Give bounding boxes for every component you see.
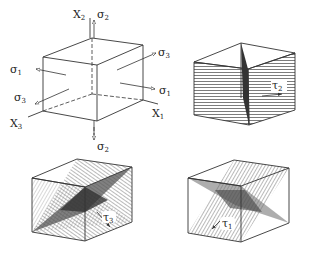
hidden-edge-right <box>92 94 143 100</box>
panel-c-inclined-shear-cube: τ3 <box>32 159 132 241</box>
cube-front-face <box>43 57 97 121</box>
sigma3-right-arrow-icon <box>117 53 156 70</box>
sigma1-left-label: σ1 <box>10 63 22 77</box>
x2-axis-label: X2 <box>73 8 85 22</box>
panel-b-vertical-shear-cube: τ2 <box>194 43 295 125</box>
hidden-edge-left <box>43 94 92 111</box>
sigma3-left-label: σ3 <box>14 91 26 105</box>
panel-d-inclined-shear-cube: τ1 <box>188 160 289 242</box>
sigma1-left-arrow-icon <box>36 69 66 75</box>
sigma2-bottom-label: σ2 <box>97 140 109 154</box>
sigma3-right-label: σ3 <box>158 46 170 60</box>
x3-axis-label: X3 <box>10 117 22 131</box>
sigma1-right-arrow-icon <box>120 83 155 89</box>
sigma1-right-label: σ1 <box>159 84 171 98</box>
stress-cube-diagram: X2 σ2 σ2 σ1 σ1 σ3 σ3 X3 X1 τ2 τ3 <box>0 0 311 253</box>
cube-top-face <box>43 38 143 65</box>
sigma3-left-arrow-icon <box>35 89 69 104</box>
x1-axis-line <box>143 100 158 104</box>
sigma2-top-label: σ2 <box>97 8 109 22</box>
x3-axis-line <box>28 111 43 117</box>
panel-a-principal-stress-cube: X2 σ2 σ2 σ1 σ1 σ3 σ3 X3 X1 <box>10 8 171 154</box>
x1-axis-label: X1 <box>152 107 164 121</box>
